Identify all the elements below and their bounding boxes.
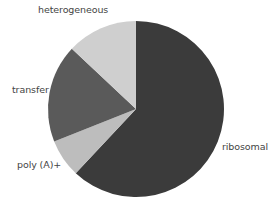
label-heterogeneous: heterogeneous [38, 5, 108, 15]
label-ribosomal: ribosomal [222, 142, 268, 152]
label-transfer: transfer [12, 85, 49, 95]
label-poly-a: poly (A)+ [17, 160, 61, 170]
pie-chart-svg [0, 0, 273, 207]
pie-chart: heterogeneous transfer poly (A)+ ribosom… [0, 0, 273, 207]
